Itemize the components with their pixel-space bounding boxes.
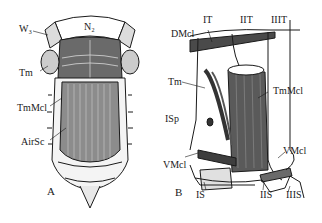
label-dmcl: DMcl <box>171 29 194 39</box>
label-iiis: IIIS <box>286 190 302 200</box>
panel-label-b: B <box>175 187 182 198</box>
label-tm: Tm <box>19 68 33 78</box>
panel-label-a: A <box>47 186 55 197</box>
label-iit: IIT <box>240 15 253 25</box>
label-vmcl-left: VMcl <box>163 160 186 170</box>
label-tmmcl: TmMcl <box>17 103 47 113</box>
label-it: IT <box>203 15 212 25</box>
label-is: IS <box>196 190 205 200</box>
panel-a-drawing <box>33 16 139 208</box>
label-w3: W₃ <box>19 24 32 34</box>
label-tm-b: Tm <box>168 77 182 87</box>
label-n2: N₂ <box>84 22 95 32</box>
label-iiit: IIIT <box>271 15 287 25</box>
anatomy-figure: W₃ N₂ Tm TmMcl AirSc A IT IIT IIIT DMcl … <box>0 0 322 223</box>
panel-b-drawing <box>182 20 304 198</box>
label-iis: IIS <box>260 190 272 200</box>
label-vmcl-right: VMcl <box>283 146 306 156</box>
label-airsc: AirSc <box>21 137 44 147</box>
label-tmmcl-b: TmMcl <box>273 86 303 96</box>
label-isp: ISp <box>165 114 179 124</box>
